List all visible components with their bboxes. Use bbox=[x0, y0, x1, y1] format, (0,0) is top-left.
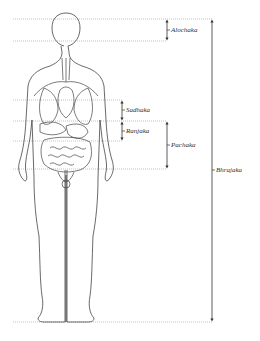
reference-lines bbox=[13, 19, 212, 322]
internal-organs bbox=[34, 58, 98, 188]
label-pachaka: Pachaka bbox=[171, 141, 196, 149]
label-ranjaka: Ranjaka bbox=[126, 127, 149, 135]
label-bhrajaka: Bhrajaka bbox=[216, 166, 242, 174]
label-ticks bbox=[122, 30, 215, 170]
region-arrows bbox=[122, 21, 212, 320]
label-sadhaka: Sadhaka bbox=[126, 106, 150, 114]
label-alochaka: Alochaka bbox=[171, 26, 197, 34]
